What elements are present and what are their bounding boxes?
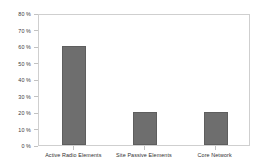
y-axis-tick-label: 70 % bbox=[18, 26, 31, 36]
bar bbox=[204, 112, 228, 145]
y-axis-tick: 40 % bbox=[0, 75, 38, 85]
x-axis: Active Radio ElementsSite Passive Elemen… bbox=[38, 146, 250, 168]
y-axis: 0 %10 %20 %30 %40 %50 %60 %70 %80 % bbox=[0, 0, 38, 168]
y-axis-tick: 10 % bbox=[0, 125, 38, 135]
y-axis-tick-label: 10 % bbox=[18, 125, 31, 135]
x-axis-tick-label: Core Network bbox=[179, 151, 250, 159]
y-axis-tick: 20 % bbox=[0, 108, 38, 118]
y-axis-tick: 80 % bbox=[0, 9, 38, 19]
y-axis-tick-label: 60 % bbox=[18, 42, 31, 52]
y-axis-tick-label: 20 % bbox=[18, 108, 31, 118]
bars-layer bbox=[39, 15, 249, 145]
y-axis-tick-label: 0 % bbox=[21, 141, 31, 151]
bar bbox=[133, 112, 157, 145]
x-axis-tick-label: Active Radio Elements bbox=[38, 151, 109, 159]
y-axis-tick-label: 40 % bbox=[18, 75, 31, 85]
y-axis-tick-label: 50 % bbox=[18, 59, 31, 69]
x-axis-tick-mark bbox=[144, 146, 145, 150]
y-axis-tick: 30 % bbox=[0, 92, 38, 102]
x-axis-tick-label: Site Passive Elements bbox=[109, 151, 180, 159]
y-axis-tick-label: 80 % bbox=[18, 9, 31, 19]
y-axis-tick: 70 % bbox=[0, 26, 38, 36]
y-axis-tick-label: 30 % bbox=[18, 92, 31, 102]
y-axis-tick: 50 % bbox=[0, 59, 38, 69]
x-axis-tick-mark bbox=[73, 146, 74, 150]
bar bbox=[62, 46, 86, 145]
x-axis-tick-mark bbox=[215, 146, 216, 150]
bar-chart-figure: 0 %10 %20 %30 %40 %50 %60 %70 %80 % Acti… bbox=[0, 0, 265, 168]
y-axis-tick: 60 % bbox=[0, 42, 38, 52]
plot-area bbox=[38, 14, 250, 146]
y-axis-tick: 0 % bbox=[0, 141, 38, 151]
